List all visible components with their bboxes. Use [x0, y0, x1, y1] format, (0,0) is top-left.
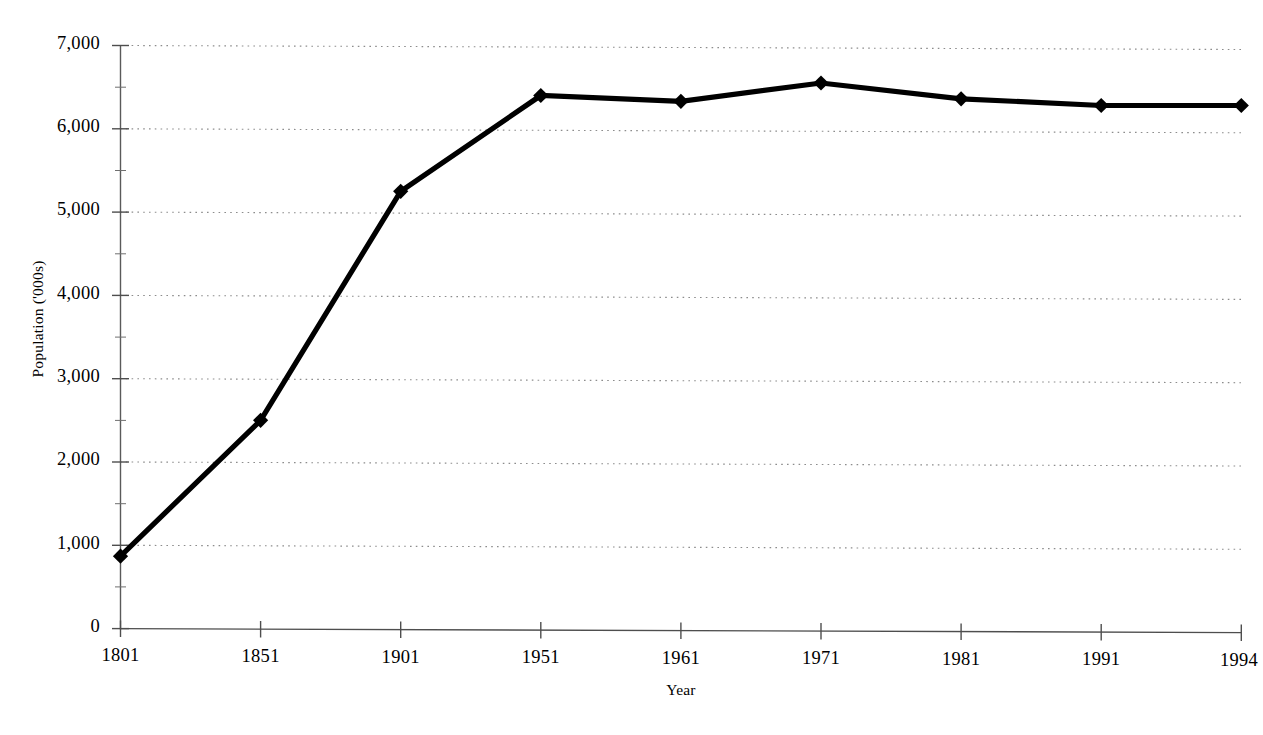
gridline-6000: [120, 129, 1242, 133]
x-tick-label-1961: 1961: [641, 648, 721, 669]
series-population-line: [121, 83, 1242, 556]
x-tick-label-1981: 1981: [921, 649, 1001, 670]
gridline-5000: [120, 212, 1242, 216]
data-point-1981: [954, 91, 969, 106]
gridlines: [120, 46, 1242, 550]
gridline-4000: [120, 295, 1242, 299]
x-tick-label-1951: 1951: [501, 647, 581, 668]
data-point-1991: [1094, 98, 1109, 113]
x-tick-label-1971: 1971: [781, 648, 861, 669]
series-population-markers: [113, 75, 1249, 563]
x-tick-label-1801: 1801: [81, 645, 161, 666]
x-tick-label-1851: 1851: [221, 646, 301, 667]
x-tick-label-1994: 1994: [1199, 650, 1263, 671]
gridline-1000: [120, 545, 1242, 549]
gridline-2000: [120, 462, 1242, 466]
data-point-1971: [813, 75, 828, 90]
x-tick-label-1991: 1991: [1061, 649, 1141, 670]
data-point-1961: [673, 94, 688, 109]
gridline-7000: [120, 46, 1242, 50]
data-point-1994: [1234, 98, 1249, 113]
x-axis-ticks: [121, 621, 1242, 642]
x-axis-title: Year: [581, 681, 781, 699]
x-tick-label-1901: 1901: [361, 647, 441, 668]
